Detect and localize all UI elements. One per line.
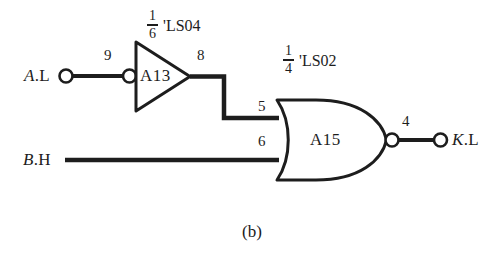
wire-inverter-to-nor-pin5 (190, 77, 279, 119)
chip-label-ls04: 1 6 'LS04 (147, 10, 201, 42)
output-terminal-k (434, 134, 447, 147)
signal-suffix-b: .H (34, 150, 51, 169)
nor-output-bubble-icon (386, 134, 399, 147)
pin-number-6: 6 (258, 134, 266, 149)
pin-number-8: 8 (197, 48, 205, 63)
signal-suffix-a: .L (35, 66, 50, 85)
gate-name-a13: A13 (140, 67, 171, 84)
figure-caption: (b) (0, 222, 504, 242)
signal-name-b: B (23, 150, 34, 169)
inverter-input-bubble-icon (123, 70, 136, 83)
signal-label-b: B.H (23, 151, 51, 168)
input-terminal-a (60, 70, 73, 83)
chip-part-number-ls04: 'LS04 (163, 18, 201, 34)
signal-suffix-k: .L (464, 130, 479, 149)
pin-number-9: 9 (104, 48, 112, 63)
pin-number-4: 4 (402, 114, 410, 129)
fraction-one-sixth: 1 6 (147, 9, 158, 41)
signal-name-k: K (452, 130, 464, 149)
logic-circuit-figure: 1 6 'LS04 1 4 'LS02 A.L B.H K.L 9 8 5 6 … (0, 0, 504, 263)
fraction-one-quarter: 1 4 (283, 44, 294, 76)
signal-label-k: K.L (452, 131, 479, 148)
gate-name-a15: A15 (310, 131, 341, 148)
chip-part-number-ls02: 'LS02 (299, 53, 337, 69)
pin-number-5: 5 (258, 99, 266, 114)
chip-label-ls02: 1 4 'LS02 (283, 45, 337, 77)
signal-name-a: A (24, 66, 35, 85)
signal-label-a: A.L (24, 67, 50, 84)
